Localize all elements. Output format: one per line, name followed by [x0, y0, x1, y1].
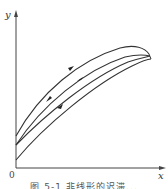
direction-arrow-icon: [68, 66, 74, 71]
inner-loop-lower-curve: [16, 56, 150, 145]
figure-caption: 图 5-1 非线形的迟滞...: [0, 180, 168, 189]
hysteresis-diagram: [0, 0, 168, 189]
outer-loop-upper-curve: [16, 46, 149, 136]
direction-arrow-icon: [46, 96, 52, 102]
origin-label: 0: [9, 170, 15, 180]
inner-loop-upper-curve: [16, 55, 150, 145]
y-axis-arrow-icon: [14, 10, 18, 17]
hysteresis-figure: y 0 x 图 5-1 非线形的迟滞...: [0, 0, 168, 189]
y-axis-label: y: [5, 9, 11, 20]
outer-loop-lower-curve: [16, 59, 151, 160]
